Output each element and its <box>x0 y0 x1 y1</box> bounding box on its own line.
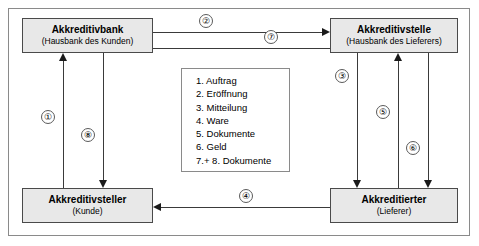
arrowhead-step-3 <box>353 180 361 188</box>
actor-subtitle: (Hausbank des Lieferers) <box>346 36 441 47</box>
arrowhead-step-5 <box>394 53 402 61</box>
legend-item: 3. Mitteilung <box>196 101 289 114</box>
arrowhead-step-4 <box>153 203 161 211</box>
legend-item: 7.+ 8. Dokumente <box>196 154 289 167</box>
legend-item: 5. Dokumente <box>196 127 289 140</box>
step-label-8: ⑧ <box>81 128 95 142</box>
legend-item: 4. Ware <box>196 114 289 127</box>
actor-subtitle: (Kunde) <box>72 206 102 217</box>
arrowhead-step-8 <box>99 180 107 188</box>
step-label-3: ③ <box>335 69 349 83</box>
legend-box: 1. Auftrag 2. Eröffnung 3. Mitteilung 4.… <box>181 68 290 172</box>
actor-subtitle: (Hausbank des Kunden) <box>42 36 134 47</box>
actor-box-akkreditivstelle[interactable]: Akkreditivstelle (Hausbank des Lieferers… <box>330 18 458 53</box>
actor-box-akkreditierter[interactable]: Akkreditierter (Lieferer) <box>330 188 458 223</box>
akkreditiv-flow-diagram: Akkreditivbank (Hausbank des Kunden) Akk… <box>0 0 479 246</box>
actor-box-akkreditivsteller[interactable]: Akkreditivsteller (Kunde) <box>22 188 153 223</box>
flow-line-step-1 <box>63 61 64 188</box>
actor-subtitle: (Lieferer) <box>377 206 411 217</box>
legend-item: 1. Auftrag <box>196 74 289 87</box>
actor-box-akkreditivbank[interactable]: Akkreditivbank (Hausbank des Kunden) <box>22 18 153 53</box>
step-label-5: ⑤ <box>376 105 390 119</box>
arrowhead-step-2 <box>322 28 330 36</box>
actor-title: Akkreditivstelle <box>357 24 431 36</box>
step-label-2: ② <box>199 14 213 28</box>
actor-title: Akkreditivbank <box>52 24 124 36</box>
arrowhead-step-1 <box>59 53 67 61</box>
flow-line-step-4 <box>161 207 330 208</box>
arrowhead-step-6 <box>424 180 432 188</box>
legend-item: 2. Eröffnung <box>196 87 289 100</box>
flow-line-step-8 <box>103 53 104 180</box>
step-label-6: ⑥ <box>406 141 420 155</box>
actor-title: Akkreditivsteller <box>49 194 127 206</box>
step-label-4: ④ <box>239 189 253 203</box>
flow-line-step-5 <box>398 61 399 188</box>
flow-line-step-6 <box>428 53 429 180</box>
flow-line-step-2 <box>153 32 322 33</box>
step-label-7: ⑦ <box>264 30 278 44</box>
actor-title: Akkreditierter <box>361 194 426 206</box>
legend-item: 6. Geld <box>196 140 289 153</box>
step-label-1: ① <box>41 110 55 124</box>
flow-line-step-3 <box>357 53 358 180</box>
